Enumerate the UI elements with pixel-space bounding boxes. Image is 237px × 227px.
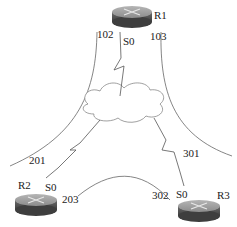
router-r2[interactable] (15, 194, 57, 216)
dlci-301-label: 301 (183, 148, 200, 159)
pvc-102-201 (10, 32, 97, 166)
pvc-103-301 (161, 32, 232, 156)
network-diagram (0, 0, 237, 227)
router-r1-label: R1 (154, 10, 167, 21)
serial-link-r2 (46, 120, 100, 178)
dlci-302-label: 302 (152, 190, 169, 201)
router-r2-label: R2 (18, 180, 31, 191)
serial-link-r3 (154, 118, 184, 186)
dlci-201-label: 201 (29, 155, 46, 166)
router-r3[interactable] (178, 200, 220, 222)
dlci-102-label: 102 (97, 29, 114, 40)
router-r1[interactable] (112, 6, 152, 28)
frame-relay-cloud (83, 83, 163, 122)
r2-interface-label: S0 (45, 182, 57, 193)
router-r3-label: R3 (217, 190, 230, 201)
r3-interface-label: S0 (176, 189, 188, 200)
r1-interface-label: S0 (123, 36, 135, 47)
dlci-103-label: 103 (150, 31, 167, 42)
dlci-203-label: 203 (62, 194, 79, 205)
